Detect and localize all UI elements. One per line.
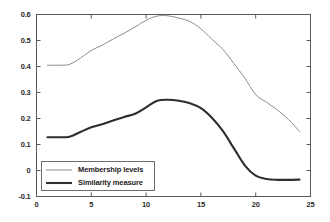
y-tick-label: 0.3 [0, 88, 31, 97]
legend-swatch-membership-levels [46, 166, 72, 174]
x-tick-label: 10 [132, 200, 160, 209]
data-series-layer [47, 16, 299, 180]
y-tick-label: 0 [0, 166, 31, 175]
x-tick-label: 20 [242, 200, 270, 209]
legend-swatch-similarity-measure [46, 179, 72, 187]
y-tick-label: 0.5 [0, 36, 31, 45]
x-tick-label: 0 [23, 200, 51, 209]
y-tick-label: 0.1 [0, 140, 31, 149]
y-tick-label: 0.4 [0, 62, 31, 71]
legend-label-membership-levels: Membership levels [78, 165, 143, 174]
legend-line-icon [46, 166, 72, 174]
x-tick-label: 5 [77, 200, 105, 209]
legend-line-icon [46, 179, 72, 187]
y-tick-label: 0.2 [0, 114, 31, 123]
legend-entry-similarity-measure: Similarity measure [42, 176, 154, 189]
x-tick-label: 15 [187, 200, 215, 209]
series-line-membership-levels [47, 16, 299, 132]
chart-figure: -0.100.10.20.30.40.50.6 0510152025 Membe… [0, 0, 330, 222]
legend-entry-membership-levels: Membership levels [42, 163, 154, 176]
chart-legend: Membership levels Similarity measure [41, 161, 155, 191]
x-tick-label: 25 [297, 200, 325, 209]
y-tick-label: 0.6 [0, 10, 31, 19]
legend-label-similarity-measure: Similarity measure [78, 178, 143, 187]
